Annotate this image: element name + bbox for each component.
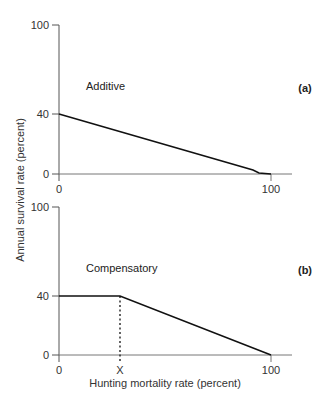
x-axis-title: Hunting mortality rate (percent) (89, 377, 241, 389)
panel-b: 100 40 0 0 X 100 Compensatory (b) (31, 201, 313, 376)
y-tick-label-100-a: 100 (31, 19, 49, 31)
series-label-compensatory: Compensatory (86, 262, 158, 274)
y-tick-label-100-b: 100 (31, 201, 49, 213)
x-tick-label-0-a: 0 (56, 183, 62, 195)
x-tick-label-x-b: X (116, 364, 124, 376)
y-tick-label-0-b: 0 (43, 349, 49, 361)
y-tick-label-40-a: 40 (37, 108, 49, 120)
y-tick-label-40-b: 40 (37, 290, 49, 302)
panel-label-b: (b) (298, 264, 312, 276)
x-tick-label-100-a: 100 (262, 183, 280, 195)
series-label-additive: Additive (86, 80, 125, 92)
additive-line (59, 114, 271, 174)
panel-label-a: (a) (298, 82, 312, 94)
x-tick-label-0-b: 0 (56, 364, 62, 376)
y-axis-title: Annual survival rate (percent) (14, 118, 26, 262)
figure: 100 40 0 0 100 Additive (a) 100 40 0 0 X… (0, 0, 328, 404)
y-tick-label-0-a: 0 (43, 168, 49, 180)
compensatory-line (59, 296, 271, 355)
panel-a: 100 40 0 0 100 Additive (a) (31, 19, 312, 195)
x-tick-label-100-b: 100 (262, 364, 280, 376)
